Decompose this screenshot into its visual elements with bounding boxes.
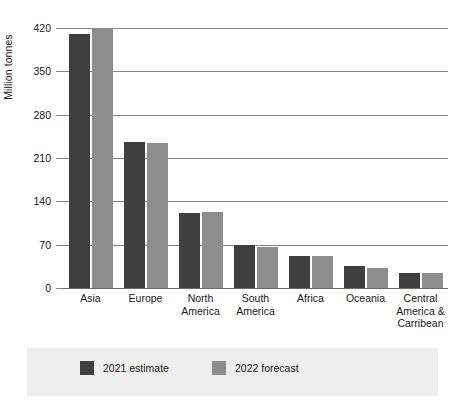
bar-group [124, 28, 168, 288]
y-axis-tick-mark [56, 245, 63, 246]
bar-group [399, 28, 443, 288]
legend-label: 2021 estimate [103, 362, 169, 374]
x-axis-category-label-line: North [170, 292, 231, 305]
y-axis-tick-mark [56, 28, 63, 29]
chart-legend: 2021 estimate2022 forecast [27, 348, 438, 396]
legend-label: 2022 forecast [235, 362, 299, 374]
x-axis-category-label-line: Africa [280, 292, 341, 305]
y-axis-tick-mark [56, 288, 63, 289]
bar [367, 268, 388, 288]
x-axis-category-label: Asia [60, 292, 121, 305]
bar [179, 213, 200, 288]
bar-group [289, 28, 333, 288]
x-axis-category-label-line: America [225, 305, 286, 318]
x-axis-category-label-line: South [225, 292, 286, 305]
x-axis-category-labels: AsiaEuropeNorthAmericaSouthAmericaAfrica… [63, 292, 448, 350]
x-axis-category-label-line: Oceania [335, 292, 396, 305]
x-axis-category-label: CentralAmerica &Carribean [390, 292, 451, 330]
bar [69, 34, 90, 288]
y-axis-tick-mark [56, 158, 63, 159]
bar [202, 212, 223, 288]
x-axis-category-label-line: Carribean [390, 317, 451, 330]
y-axis-tick-label: 350 [5, 66, 51, 77]
bar [124, 142, 145, 288]
y-axis-tick-mark [56, 201, 63, 202]
x-axis-category-label-line: Central [390, 292, 451, 305]
bar [422, 273, 443, 288]
bar [344, 266, 365, 288]
x-axis-category-label-line: Europe [115, 292, 176, 305]
bar [92, 28, 113, 288]
x-axis-category-label-line: America [170, 305, 231, 318]
y-axis-tick-mark [56, 71, 63, 72]
x-axis-category-label-line: America & [390, 305, 451, 318]
bar [289, 256, 310, 288]
x-axis-category-label: Europe [115, 292, 176, 305]
gridline [63, 288, 448, 289]
bar [257, 247, 278, 288]
y-axis-tick-label: 140 [5, 196, 51, 207]
plot-area [63, 28, 448, 288]
bar-group [344, 28, 388, 288]
x-axis-category-label: SouthAmerica [225, 292, 286, 317]
bar [399, 273, 420, 288]
y-axis-tick-label: 70 [5, 240, 51, 251]
x-axis-category-label: NorthAmerica [170, 292, 231, 317]
bars-layer [63, 28, 448, 288]
y-axis-tick-label: 210 [5, 153, 51, 164]
legend-swatch-icon [80, 361, 94, 375]
y-axis-tick-mark [56, 115, 63, 116]
bar [147, 143, 168, 288]
legend-item[interactable]: 2021 estimate [80, 360, 169, 376]
y-axis-tick-label: 420 [5, 23, 51, 34]
legend-item[interactable]: 2022 forecast [212, 360, 299, 376]
bar-chart: Million tonnes 070140210280350420 AsiaEu… [0, 0, 465, 401]
y-axis-tick-label: 0 [5, 283, 51, 294]
x-axis-category-label: Africa [280, 292, 341, 305]
bar [234, 245, 255, 288]
bar-group [234, 28, 278, 288]
legend-swatch-icon [212, 361, 226, 375]
bar-group [179, 28, 223, 288]
x-axis-category-label-line: Asia [60, 292, 121, 305]
bar [312, 256, 333, 288]
y-axis-tick-label: 280 [5, 110, 51, 121]
bar-group [69, 28, 113, 288]
x-axis-category-label: Oceania [335, 292, 396, 305]
